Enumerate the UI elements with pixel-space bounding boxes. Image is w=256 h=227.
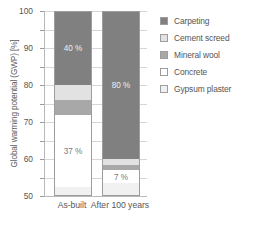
bar-segment-carpeting[interactable]: [102, 11, 140, 159]
x-axis-tick-label: After 100 years: [60, 200, 180, 210]
bar-after-100-years[interactable]: 7 %80 %: [102, 11, 140, 196]
y-axis-tick: 80: [40, 48, 44, 49]
y-axis-tick: 40: [40, 122, 44, 123]
bar-segment-gypsum-plaster[interactable]: [102, 183, 140, 196]
chart-figure: Global warming potential (GWP) [%] 01020…: [0, 0, 256, 227]
bar-segment-gypsum-plaster[interactable]: [54, 187, 92, 196]
y-axis-tick: 20: [40, 159, 44, 160]
bar-segment-cement-screed[interactable]: [102, 159, 140, 165]
y-axis-tick-label: 60: [24, 154, 33, 164]
legend-swatch-icon: [160, 85, 168, 93]
legend-item-label: Cement screed: [174, 33, 230, 43]
legend: CarpetingCement screedMineral woolConcre…: [160, 12, 254, 97]
y-axis-tick-label: 80: [24, 80, 33, 90]
y-axis-tick-label: 100: [19, 6, 33, 16]
legend-item-gypsum-plaster[interactable]: Gypsum plaster: [160, 80, 254, 97]
bar-segment-mineral-wool[interactable]: [54, 100, 92, 115]
bar-as-built[interactable]: 37 %40 %: [54, 11, 92, 196]
y-axis-tick-label: 70: [24, 117, 33, 127]
legend-item-carpeting[interactable]: Carpeting: [160, 12, 254, 29]
legend-item-label: Carpeting: [174, 16, 209, 26]
legend-item-cement-screed[interactable]: Cement screed: [160, 29, 254, 46]
y-axis-tick: 100: [40, 11, 44, 12]
legend-swatch-icon: [160, 34, 168, 42]
legend-item-mineral-wool[interactable]: Mineral wool: [160, 46, 254, 63]
y-axis-tick: 70: [40, 67, 44, 68]
legend-item-label: Concrete: [174, 67, 207, 77]
bar-segment-concrete[interactable]: [102, 170, 140, 183]
bar-segment-mineral-wool[interactable]: [102, 165, 140, 171]
legend-swatch-icon: [160, 68, 168, 76]
bar-segment-cement-screed[interactable]: [54, 85, 92, 100]
legend-item-label: Mineral wool: [174, 50, 220, 60]
legend-swatch-icon: [160, 17, 168, 25]
y-axis-tick: 10: [40, 178, 44, 179]
y-axis-tick: 0: [40, 196, 44, 197]
y-axis-tick: 60: [40, 85, 44, 86]
legend-item-concrete[interactable]: Concrete: [160, 63, 254, 80]
y-axis-tick: 90: [40, 30, 44, 31]
y-axis-tick: 50: [40, 104, 44, 105]
y-axis-tick-label: 90: [24, 43, 33, 53]
bar-segment-concrete[interactable]: [54, 115, 92, 187]
y-axis-title: Global warming potential (GWP) [%]: [10, 11, 19, 197]
plot-area: 0102030405060708090100 37 %40 %7 %80 %: [44, 11, 147, 197]
legend-swatch-icon: [160, 51, 168, 59]
legend-item-label: Gypsum plaster: [174, 84, 231, 94]
bar-segment-carpeting[interactable]: [54, 11, 92, 85]
y-axis-tick: 30: [40, 141, 44, 142]
